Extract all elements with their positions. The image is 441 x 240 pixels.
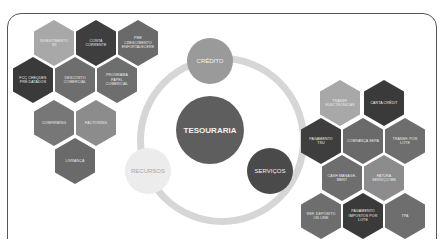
node-recursos: RECURSOS [125,148,171,194]
center-tesouraria: TESOURARIA [176,96,244,164]
node-credito: CRÉDITO [187,38,233,84]
node-servicos: SERVIÇOS [247,148,293,194]
